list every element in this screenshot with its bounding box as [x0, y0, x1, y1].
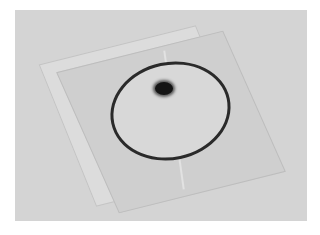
photograph: [15, 10, 307, 221]
dark-spot: [155, 82, 173, 95]
